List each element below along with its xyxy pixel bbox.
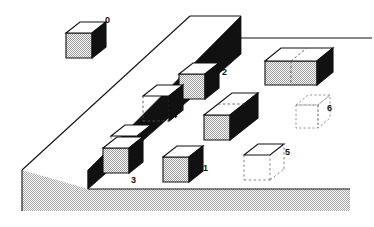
block-6[interactable] xyxy=(296,95,330,128)
label-3: 3 xyxy=(131,176,136,185)
block-wide-unlabeled[interactable] xyxy=(265,48,333,85)
block-0-front-face xyxy=(66,33,92,58)
block-long-front-face xyxy=(204,115,230,140)
label-1: 1 xyxy=(203,164,208,173)
label-2: 2 xyxy=(222,68,227,77)
block-6-ghost-front-face xyxy=(296,105,318,128)
blocks-world-figure: 0 2 4 3 1 5 6 xyxy=(0,0,374,227)
label-0: 0 xyxy=(105,16,110,25)
label-4: 4 xyxy=(172,111,177,120)
block-3-front-face xyxy=(103,148,129,173)
block-5-top-face xyxy=(244,144,284,155)
block-long-unlabeled[interactable] xyxy=(204,93,258,140)
block-1-front-face xyxy=(163,157,189,182)
block-5[interactable] xyxy=(244,144,284,180)
label-5: 5 xyxy=(285,148,290,157)
block-6-ghost-top-face xyxy=(296,95,330,105)
block-0[interactable] xyxy=(66,22,106,58)
label-6: 6 xyxy=(327,104,332,113)
block-1[interactable] xyxy=(163,146,203,182)
scene-svg xyxy=(0,0,374,227)
